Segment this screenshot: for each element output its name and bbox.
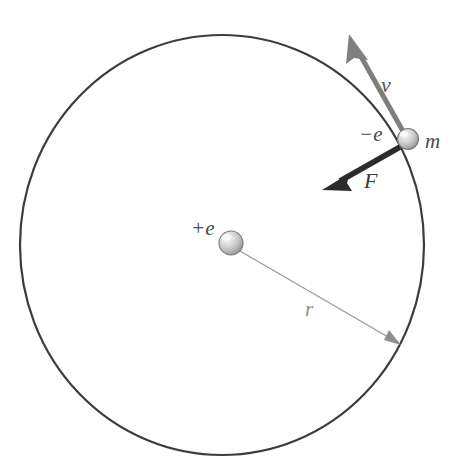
radius-line <box>240 251 395 341</box>
bohr-atom-diagram: +e −e m v F r <box>0 0 461 468</box>
nucleus-charge-label: +e <box>191 218 215 239</box>
radius-indicator <box>240 251 401 345</box>
electron-charge-label: −e <box>359 124 383 145</box>
radius-label: r <box>305 299 313 320</box>
radius-arrowhead <box>384 330 401 345</box>
velocity-vector <box>346 34 404 133</box>
velocity-label: v <box>381 74 391 96</box>
force-label: F <box>364 170 377 192</box>
nucleus-sphere <box>219 231 243 255</box>
velocity-arrowhead <box>346 34 368 64</box>
force-arrowhead <box>322 173 352 191</box>
force-vector <box>322 147 400 191</box>
electron-mass-label: m <box>425 131 440 152</box>
diagram-canvas <box>0 0 461 468</box>
electron-sphere <box>398 129 419 150</box>
